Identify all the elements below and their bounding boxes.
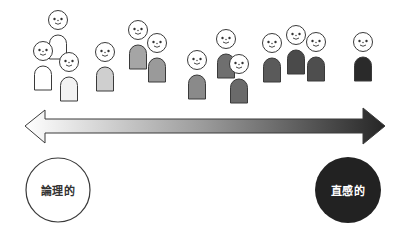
person-figure — [287, 26, 306, 75]
person-figure — [263, 34, 282, 83]
person-body — [231, 79, 248, 103]
person-body — [97, 67, 114, 91]
person-figure — [188, 51, 207, 100]
person-body — [35, 66, 52, 90]
person-body — [355, 57, 372, 81]
person-body — [308, 57, 325, 81]
person-figure — [96, 43, 115, 92]
person-body — [288, 50, 305, 74]
diagram-canvas — [0, 0, 410, 235]
people-group — [34, 11, 373, 104]
person-figure — [354, 33, 373, 82]
person-body — [61, 77, 78, 101]
person-figure — [148, 34, 167, 83]
person-figure — [60, 53, 79, 102]
logic-intuition-diagram: 論理的 直感的 — [0, 0, 410, 235]
person-body — [189, 75, 206, 99]
person-body — [149, 58, 166, 82]
logical-label: 論理的 — [18, 182, 98, 198]
double-arrow — [25, 108, 385, 144]
person-figure — [230, 55, 249, 104]
intuitive-label: 直感的 — [308, 182, 388, 198]
person-figure — [307, 33, 326, 82]
person-figure — [34, 42, 53, 91]
person-figure — [129, 21, 148, 70]
person-body — [130, 45, 147, 69]
person-body — [264, 58, 281, 82]
